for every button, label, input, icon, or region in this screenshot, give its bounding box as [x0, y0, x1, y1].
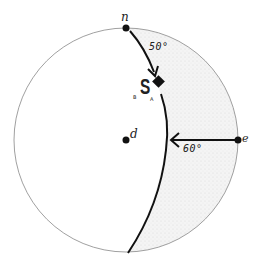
label-n: n	[121, 11, 129, 23]
point-e-icon	[235, 137, 242, 144]
stereonet-diagram: n d e 50° 60° S B A	[0, 0, 261, 263]
angle-label-60: 60°	[183, 144, 203, 154]
point-n-icon	[123, 25, 130, 32]
label-d: d	[130, 128, 138, 140]
point-d-icon	[123, 137, 130, 144]
symbol-sub-a: A	[150, 97, 153, 102]
label-e: e	[242, 133, 249, 144]
angle-label-50: 50°	[149, 42, 169, 52]
symbol-sub-b: B	[133, 95, 136, 100]
symbol-s: S	[140, 76, 150, 98]
